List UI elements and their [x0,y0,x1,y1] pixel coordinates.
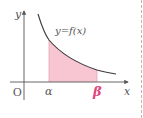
y-axis-label: y [15,9,21,20]
alpha-label: α [45,86,52,97]
dashed-divider [141,0,142,118]
shaded-area [49,40,97,82]
beta-label: β [93,85,102,98]
function-label: y=f(x) [55,26,86,36]
x-axis-label: x [124,86,130,97]
area-under-curve-diagram [0,0,143,118]
origin-label: O [13,86,22,98]
